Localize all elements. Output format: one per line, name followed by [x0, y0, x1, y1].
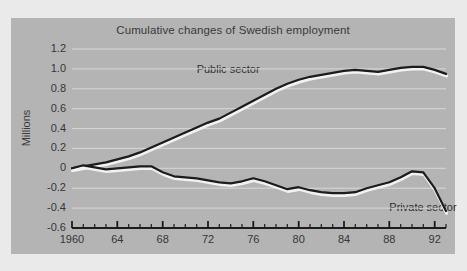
- series-line-public-sector: [72, 67, 446, 168]
- series-highlight-private-sector: [73, 168, 447, 214]
- chart-panel: Cumulative changes of Swedish employment…: [11, 18, 455, 254]
- axis-ticks: [72, 221, 446, 228]
- chart-page: Cumulative changes of Swedish employment…: [0, 0, 467, 271]
- chart-plot-area: [11, 18, 455, 254]
